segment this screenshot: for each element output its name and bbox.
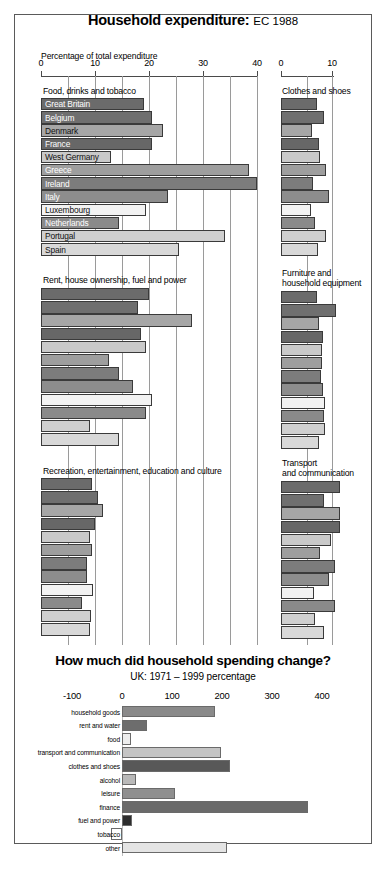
axis-tick-label-left-1: 10 (80, 58, 110, 68)
bar-2-0[interactable] (41, 288, 149, 300)
bar-3-0[interactable] (281, 291, 317, 303)
infographic-page: Household expenditure: EC 1988 Percentag… (0, 0, 388, 872)
bar-5-11[interactable] (281, 626, 324, 638)
bar-1-8[interactable] (281, 204, 311, 216)
panel-caption-1: Clothes and shoes (282, 86, 351, 96)
bar-5-1[interactable] (281, 494, 324, 506)
bar-4-1[interactable] (41, 491, 98, 503)
axis-tick-left-0 (41, 71, 42, 77)
bar-4-9[interactable] (41, 597, 82, 609)
bar-3-3[interactable] (281, 331, 323, 343)
bar-4-0[interactable] (41, 478, 92, 490)
panel-caption-line: Rent, house ownership, fuel and power (43, 275, 187, 285)
country-label-5: Greece (45, 166, 72, 175)
panel-caption-2: Rent, house ownership, fuel and power (43, 275, 187, 285)
bar-1-6[interactable] (281, 177, 313, 189)
axis-line-right (281, 76, 334, 77)
bar-2-10[interactable] (41, 420, 90, 432)
bottom-bar-label-4: clothes and shoes (2, 763, 120, 770)
bottom-bar-7[interactable] (122, 801, 308, 812)
bottom-bar-label-7: finance (2, 804, 120, 811)
bar-3-2[interactable] (281, 317, 319, 329)
country-label-9: Netherlands (45, 219, 89, 228)
bar-5-5[interactable] (281, 547, 320, 559)
bottom-bar-5[interactable] (122, 774, 136, 785)
bar-4-4[interactable] (41, 531, 90, 543)
bar-0-5[interactable] (41, 164, 249, 176)
bar-5-9[interactable] (281, 600, 335, 612)
bar-3-7[interactable] (281, 383, 323, 395)
bar-2-11[interactable] (41, 433, 119, 445)
bar-3-10[interactable] (281, 423, 325, 435)
bar-1-2[interactable] (281, 124, 312, 136)
panel-caption-3: Furniture andhousehold equipment (282, 268, 361, 288)
bar-1-10[interactable] (281, 230, 326, 242)
bar-3-1[interactable] (281, 304, 336, 316)
bottom-bar-1[interactable] (122, 720, 147, 731)
bar-1-1[interactable] (281, 111, 324, 123)
bar-4-8[interactable] (41, 584, 93, 596)
bar-2-6[interactable] (41, 367, 119, 379)
bar-4-2[interactable] (41, 504, 103, 516)
title-light: EC 1988 (253, 15, 298, 27)
bar-1-11[interactable] (281, 243, 318, 255)
bar-3-6[interactable] (281, 370, 321, 382)
bottom-tick-label-2: 100 (152, 690, 192, 701)
bar-3-11[interactable] (281, 436, 319, 448)
bottom-bar-2[interactable] (122, 733, 131, 744)
bar-3-5[interactable] (281, 357, 322, 369)
bar-2-4[interactable] (41, 341, 146, 353)
bar-4-6[interactable] (41, 557, 87, 569)
bar-5-8[interactable] (281, 587, 314, 599)
bar-3-4[interactable] (281, 344, 322, 356)
bar-4-10[interactable] (41, 610, 91, 622)
bar-5-3[interactable] (281, 521, 340, 533)
country-label-1: Belgium (45, 114, 74, 123)
bar-5-2[interactable] (281, 507, 340, 519)
bar-3-9[interactable] (281, 410, 324, 422)
bar-2-3[interactable] (41, 328, 141, 340)
bar-1-3[interactable] (281, 138, 319, 150)
gridline-left-35 (230, 76, 231, 645)
bar-5-4[interactable] (281, 534, 331, 546)
bottom-bar-4[interactable] (122, 760, 230, 771)
bar-1-4[interactable] (281, 151, 320, 163)
bottom-bar-label-0: household goods (2, 709, 120, 716)
bottom-bar-6[interactable] (122, 788, 175, 799)
bar-2-5[interactable] (41, 354, 109, 366)
bottom-bar-3[interactable] (122, 747, 221, 758)
bar-5-6[interactable] (281, 560, 335, 572)
bar-5-7[interactable] (281, 573, 329, 585)
country-label-7: Italy (45, 193, 60, 202)
bar-0-7[interactable] (41, 190, 168, 202)
bar-5-0[interactable] (281, 481, 340, 493)
bar-4-3[interactable] (41, 518, 95, 530)
bar-5-10[interactable] (281, 613, 315, 625)
bar-1-0[interactable] (281, 98, 317, 110)
bar-4-7[interactable] (41, 570, 87, 582)
bar-2-2[interactable] (41, 314, 192, 326)
bottom-bar-10[interactable] (122, 842, 227, 853)
bottom-bar-label-5: alcohol (2, 777, 120, 784)
bar-2-7[interactable] (41, 380, 133, 392)
bottom-bar-0[interactable] (122, 706, 215, 717)
title-bold: Household expenditure: (88, 12, 250, 28)
bar-1-7[interactable] (281, 190, 329, 202)
country-label-3: France (45, 140, 70, 149)
bottom-bar-label-6: leisure (2, 790, 120, 797)
bar-3-8[interactable] (281, 397, 325, 409)
bottom-chart-subtitle: UK: 1971 – 1999 percentage (14, 671, 372, 682)
bar-2-8[interactable] (41, 394, 152, 406)
bottom-bar-label-8: fuel and power (2, 817, 120, 824)
bar-2-9[interactable] (41, 407, 146, 419)
bar-1-9[interactable] (281, 217, 315, 229)
bar-0-6[interactable] (41, 177, 257, 189)
bottom-tick-label-1: 0 (102, 690, 142, 701)
axis-tick-right-0 (281, 71, 282, 77)
bar-1-5[interactable] (281, 164, 326, 176)
bottom-bar-8[interactable] (122, 815, 132, 826)
bar-2-1[interactable] (41, 301, 138, 313)
bar-4-11[interactable] (41, 623, 90, 635)
bar-4-5[interactable] (41, 544, 92, 556)
panel-caption-line: Furniture and (282, 268, 361, 278)
